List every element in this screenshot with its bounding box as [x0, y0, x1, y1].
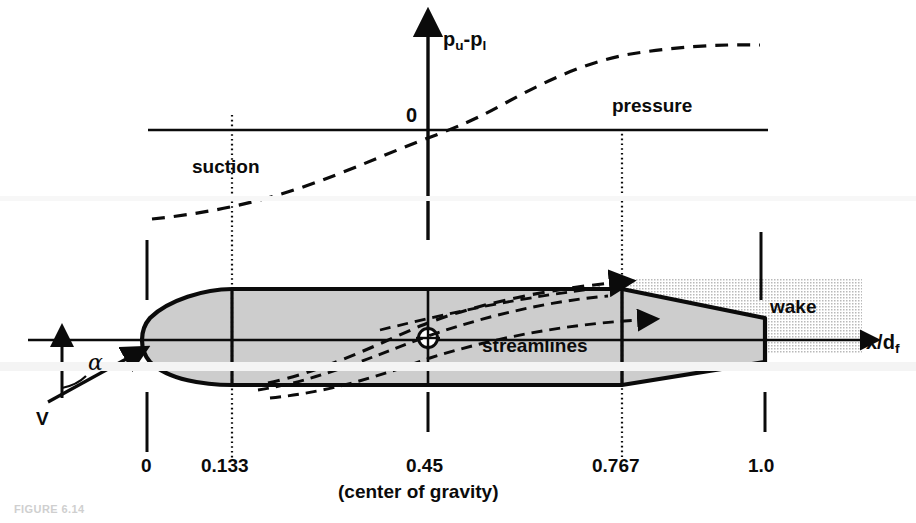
suction-region-label: suction [192, 156, 260, 178]
wake-region-label: wake [770, 296, 816, 318]
y-axis-label: pu-pl [443, 28, 486, 53]
velocity-label: V [36, 408, 49, 430]
pressure-region-label: pressure [612, 95, 692, 117]
pressure-difference-curve [152, 45, 760, 219]
center-of-gravity-note: (center of gravity) [338, 481, 498, 503]
scan-band-artifact-upper [0, 196, 916, 201]
x-axis-sub-f: f [895, 341, 900, 356]
x-axis-label: x/df [866, 331, 899, 356]
y-axis-sub-l: l [482, 38, 486, 53]
angle-of-attack-label: α [88, 350, 103, 375]
tick-label-0133: 0.133 [201, 455, 249, 477]
scan-band-artifact [0, 362, 916, 371]
tick-label-0767: 0.767 [592, 455, 640, 477]
tick-label-045: 0.45 [406, 455, 443, 477]
aerodynamic-body-pressure-diagram [0, 0, 916, 523]
tick-label-10: 1.0 [748, 455, 774, 477]
figure-caption: FIGURE 6.14 [14, 503, 84, 515]
y-axis-dash: -p [464, 28, 483, 50]
figure-canvas: pu-pl 0 pressure suction wake streamline… [0, 0, 916, 523]
tick-label-0: 0 [141, 455, 152, 477]
zero-label: 0 [406, 104, 417, 127]
y-axis-sub-u: u [455, 38, 463, 53]
streamlines-label: streamlines [482, 335, 588, 357]
